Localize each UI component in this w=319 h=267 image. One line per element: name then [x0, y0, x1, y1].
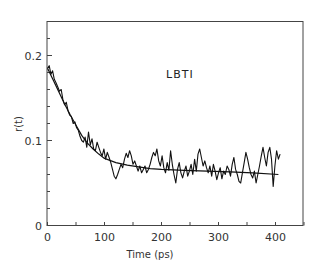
x-tick-label: 0 [44, 231, 51, 244]
x-tick-label: 300 [208, 231, 229, 244]
series-data [48, 66, 281, 187]
x-tick-label: 400 [265, 231, 286, 244]
annotation-label: LBTI [166, 68, 194, 81]
x-tick-label: 200 [151, 231, 172, 244]
chart: 00.10.2 0100200300400 LBTI Time (ps) r(t… [0, 0, 319, 267]
x-tick-label: 100 [94, 231, 115, 244]
y-tick-label: 0.1 [25, 135, 43, 148]
y-axis-ticks: 00.10.2 [25, 22, 53, 233]
y-tick-label: 0 [35, 220, 42, 233]
plot-frame [47, 22, 303, 226]
y-tick-label: 0.2 [25, 50, 43, 63]
x-axis-title: Time (ps) [125, 249, 173, 260]
data-series [48, 66, 281, 187]
y-axis-title: r(t) [13, 116, 24, 132]
